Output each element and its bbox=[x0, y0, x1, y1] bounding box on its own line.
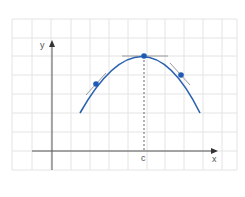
axes bbox=[32, 40, 218, 170]
grid bbox=[12, 19, 237, 170]
c-label: c bbox=[141, 153, 146, 163]
point-left bbox=[93, 81, 99, 87]
diagram-canvas: y x c bbox=[0, 0, 245, 197]
point-right bbox=[178, 72, 184, 78]
y-axis-arrow-icon bbox=[49, 40, 55, 47]
x-axis-label: x bbox=[212, 154, 217, 164]
y-axis-label: y bbox=[40, 40, 45, 50]
point-vertex bbox=[141, 53, 147, 59]
